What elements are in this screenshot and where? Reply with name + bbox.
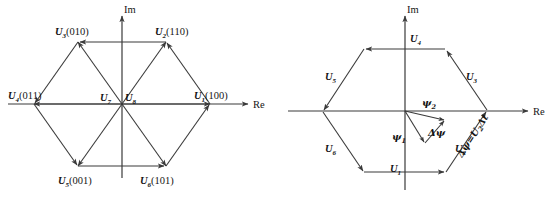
figure-canvas: Re Im U1(100) U2(110) U3(010) U4(011) U5: [0, 0, 560, 198]
right-im-axis-label: Im: [407, 4, 419, 15]
right-re-axis-label: Re: [533, 106, 545, 117]
left-im-axis-label: Im: [124, 4, 136, 15]
right-label-delta-psi: Δψ: [427, 127, 446, 138]
left-re-axis-label: Re: [253, 99, 265, 110]
space-vector-figure: Re Im U1(100) U2(110) U3(010) U4(011) U5: [0, 0, 560, 198]
